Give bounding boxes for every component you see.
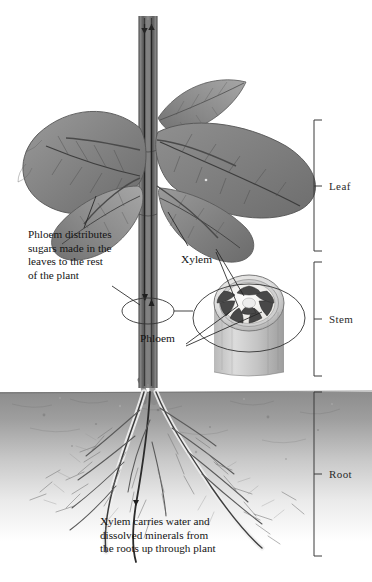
region-brackets <box>0 0 372 582</box>
bracket-label-leaf: Leaf <box>329 180 351 192</box>
bracket-label-root: Root <box>329 468 352 480</box>
figure-canvas: Phloem distributes sugars made in the le… <box>0 0 372 582</box>
bracket-label-stem: Stem <box>329 313 353 325</box>
